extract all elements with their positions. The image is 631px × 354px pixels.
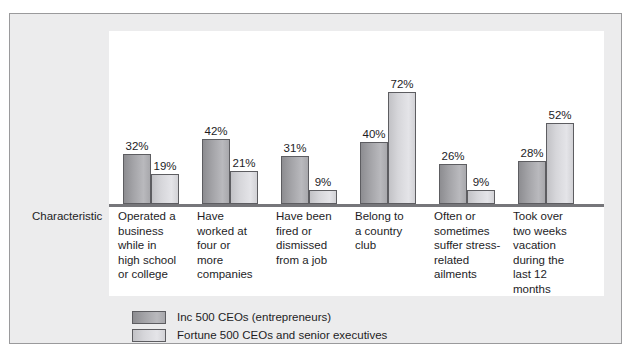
category-label-line: Have been: [276, 209, 350, 224]
legend-item[interactable]: Inc 500 CEOs (entrepreneurs): [132, 310, 387, 325]
category-label-line: related: [434, 253, 508, 268]
category-label: Took over two weeks vacation during the …: [513, 209, 587, 296]
category-label-line: during the: [513, 253, 587, 268]
category-label-line: worked at: [197, 224, 271, 239]
category-label-row: Operated a business while in high school…: [109, 209, 604, 299]
category-label-line: Often or: [434, 209, 508, 224]
category-label-line: Belong to: [355, 209, 429, 224]
category-label-line: last 12: [513, 267, 587, 282]
bar-series-b[interactable]: 19%: [151, 174, 179, 204]
category-label-line: four or: [197, 238, 271, 253]
bar-value-label: 19%: [153, 161, 176, 173]
bar-value-label: 31%: [283, 143, 306, 155]
category-label-line: more: [197, 253, 271, 268]
bar-group: 32% 19%: [123, 44, 179, 204]
bar-group: 28% 52%: [518, 44, 574, 204]
category-label: Have been fired or dismissed from a job: [276, 209, 350, 267]
category-label-line: Have: [197, 209, 271, 224]
legend-swatch-icon: [132, 329, 166, 342]
legend-item-label: Fortune 500 CEOs and senior executives: [177, 330, 387, 342]
bar-group: 31% 9%: [281, 44, 337, 204]
bar-series-b[interactable]: 52%: [546, 123, 574, 204]
bar-series-a[interactable]: 40%: [360, 142, 388, 204]
bar-value-label: 21%: [232, 158, 255, 170]
bar-series-b[interactable]: 72%: [388, 92, 416, 204]
category-label-line: vacation: [513, 238, 587, 253]
legend-item[interactable]: Fortune 500 CEOs and senior executives: [132, 328, 387, 343]
bar-value-label: 72%: [390, 79, 413, 91]
bar-value-label: 32%: [125, 141, 148, 153]
legend-swatch-icon: [132, 311, 166, 324]
category-label-line: months: [513, 282, 587, 297]
bar-value-label: 26%: [441, 151, 464, 163]
axis-title-characteristic: Characteristic: [32, 209, 102, 224]
category-label-line: two weeks: [513, 224, 587, 239]
category-label: Have worked at four or more companies: [197, 209, 271, 282]
category-label-line: companies: [197, 267, 271, 282]
chart-figure: 32% 19% 42% 21% 31% 9%: [9, 13, 622, 344]
bar-value-label: 9%: [473, 177, 490, 189]
bar-series-a[interactable]: 32%: [123, 154, 151, 204]
bar-series-b[interactable]: 21%: [230, 171, 258, 204]
category-label-line: Operated a: [118, 209, 192, 224]
category-label-line: business: [118, 224, 192, 239]
category-label: Operated a business while in high school…: [118, 209, 192, 282]
category-label: Belong to a country club: [355, 209, 429, 253]
bar-series-b[interactable]: 9%: [467, 190, 495, 204]
bar-group: 40% 72%: [360, 44, 416, 204]
bar-series-a[interactable]: 31%: [281, 156, 309, 204]
chart-legend: Inc 500 CEOs (entrepreneurs) Fortune 500…: [132, 310, 387, 346]
bar-value-label: 40%: [362, 129, 385, 141]
bar-group: 26% 9%: [439, 44, 495, 204]
bar-group: 42% 21%: [202, 44, 258, 204]
category-label-line: ailments: [434, 267, 508, 282]
category-label-line: sometimes: [434, 224, 508, 239]
bar-series-a[interactable]: 26%: [439, 164, 467, 204]
category-label-line: club: [355, 238, 429, 253]
category-label-line: a country: [355, 224, 429, 239]
category-label-line: Took over: [513, 209, 587, 224]
bar-value-label: 28%: [520, 148, 543, 160]
category-label-line: fired or: [276, 224, 350, 239]
axis-baseline: [109, 204, 604, 207]
category-label-line: dismissed: [276, 238, 350, 253]
category-label-line: suffer stress-: [434, 238, 508, 253]
bar-value-label: 9%: [315, 177, 332, 189]
legend-item-label: Inc 500 CEOs (entrepreneurs): [177, 312, 331, 324]
category-label-line: or college: [118, 267, 192, 282]
bar-series-a[interactable]: 28%: [518, 161, 546, 204]
bar-value-label: 42%: [204, 126, 227, 138]
category-label-line: high school: [118, 253, 192, 268]
category-label-line: while in: [118, 238, 192, 253]
category-label: Often or sometimes suffer stress- relate…: [434, 209, 508, 282]
bar-series-a[interactable]: 42%: [202, 139, 230, 204]
bar-series-b[interactable]: 9%: [309, 190, 337, 204]
bar-value-label: 52%: [548, 110, 571, 122]
category-label-line: from a job: [276, 253, 350, 268]
